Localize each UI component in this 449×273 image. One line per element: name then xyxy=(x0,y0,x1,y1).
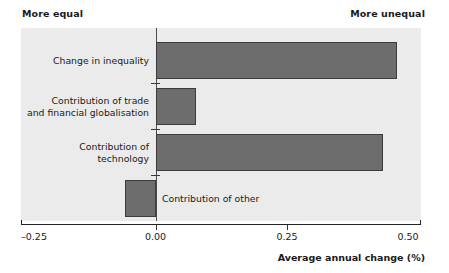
more-unequal-annotation: More unequal xyxy=(350,8,425,19)
bar-change-in-inequality xyxy=(156,42,398,79)
category-separator-tick xyxy=(151,175,160,176)
plot-area: Change in inequality Contribution of tra… xyxy=(21,28,421,221)
chart-page: More equal More unequal Change in inequa… xyxy=(0,0,449,273)
more-equal-annotation: More equal xyxy=(22,8,83,19)
x-axis-right-cap xyxy=(420,220,421,225)
x-tick-label-0.25: 0.25 xyxy=(276,231,297,242)
bar-contribution-of-technology xyxy=(156,134,384,171)
x-axis-line xyxy=(21,224,421,225)
x-tick-label-0.50: 0.50 xyxy=(397,231,418,242)
category-separator-tick xyxy=(151,129,160,130)
x-tick-label-neg-0.25: –0.25 xyxy=(21,231,47,242)
bar-contribution-of-other xyxy=(125,180,156,217)
x-axis-left-cap xyxy=(21,220,22,225)
x-axis-title: Average annual change (%) xyxy=(278,252,425,263)
x-axis-tick-0.00 xyxy=(156,225,157,230)
bar-label-contribution-of-other: Contribution of other xyxy=(162,193,292,205)
category-separator-tick xyxy=(151,83,160,84)
x-axis-tick-0.25 xyxy=(287,225,288,230)
bar-label-contribution-of-trade-and-financial-globalisation: Contribution of trade and financial glob… xyxy=(25,95,149,118)
bar-label-change-in-inequality: Change in inequality xyxy=(35,55,149,67)
bar-contribution-of-trade-and-financial-globalisation xyxy=(156,88,197,125)
x-tick-label-0.00: 0.00 xyxy=(145,231,166,242)
bar-label-contribution-of-technology: Contribution of technology xyxy=(59,141,149,164)
